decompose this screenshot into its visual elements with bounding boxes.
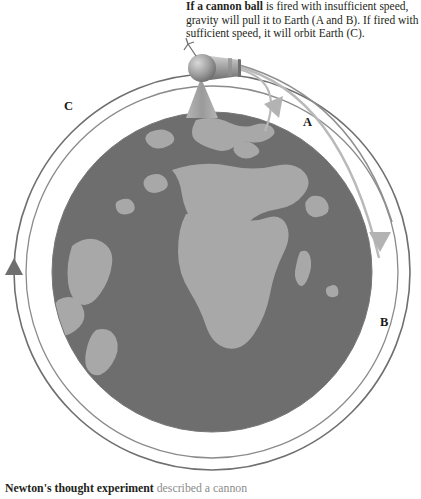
caption-bottom-lead: Newton's thought experiment [5, 481, 154, 495]
diagram-canvas: A B C If a cannon ball is fired with ins… [0, 0, 421, 499]
mountain-pedestal-icon [186, 78, 218, 118]
globe-icon [49, 112, 372, 432]
arrow-head-c-icon [5, 258, 23, 275]
label-c: C [64, 99, 73, 113]
arrow-head-b-icon [369, 232, 391, 252]
caption-bottom: Newton's thought experiment described a … [5, 481, 421, 495]
caption-top-lead: If a cannon ball [186, 0, 263, 12]
cannon-icon [184, 38, 241, 82]
caption-bottom-rest: described a cannon [154, 481, 247, 495]
label-b: B [380, 315, 388, 329]
newtons-cannonball-diagram: A B C [0, 0, 421, 499]
arrow-head-a-icon [264, 96, 283, 118]
label-a: A [303, 115, 312, 129]
caption-top: If a cannon ball is fired with insuffici… [186, 0, 421, 41]
